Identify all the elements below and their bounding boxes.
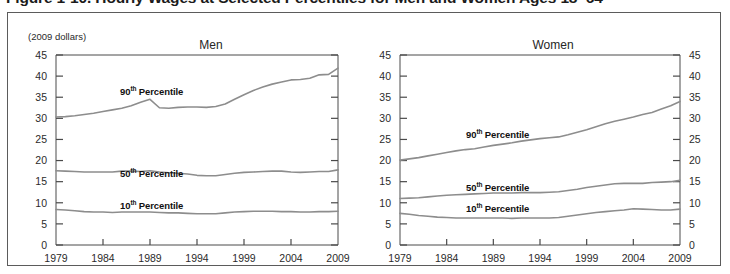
svg-text:0: 0 xyxy=(41,239,47,251)
svg-text:45: 45 xyxy=(35,49,47,61)
chart-plot-area: 0510152025303540451979198419891994199920… xyxy=(8,13,722,267)
svg-text:1994: 1994 xyxy=(528,252,552,264)
svg-text:2004: 2004 xyxy=(622,252,646,264)
svg-text:20: 20 xyxy=(689,154,701,166)
svg-text:10: 10 xyxy=(35,197,47,209)
svg-text:30: 30 xyxy=(35,112,47,124)
svg-text:15: 15 xyxy=(379,175,391,187)
svg-text:5: 5 xyxy=(385,218,391,230)
svg-text:0: 0 xyxy=(689,239,695,251)
series-label-women-p90: 90th Percentile xyxy=(466,129,529,140)
series-label-women-p50: 50th Percentile xyxy=(466,182,529,193)
series-label-men-p50: 50th Percentile xyxy=(120,168,183,179)
svg-text:1994: 1994 xyxy=(185,252,209,264)
svg-text:15: 15 xyxy=(689,175,701,187)
svg-text:35: 35 xyxy=(689,91,701,103)
series-label-men-p10: 10th Percentile xyxy=(120,200,183,211)
svg-text:20: 20 xyxy=(379,154,391,166)
svg-text:1999: 1999 xyxy=(232,252,256,264)
figure-container: Figure 1-10. Hourly Wages at Selected Pe… xyxy=(0,0,730,274)
svg-text:25: 25 xyxy=(35,133,47,145)
svg-text:0: 0 xyxy=(385,239,391,251)
svg-text:1989: 1989 xyxy=(138,252,162,264)
figure-title: Figure 1-10. Hourly Wages at Selected Pe… xyxy=(6,0,726,7)
svg-text:5: 5 xyxy=(41,218,47,230)
svg-text:1984: 1984 xyxy=(435,252,459,264)
series-label-women-p10: 10th Percentile xyxy=(466,203,529,214)
svg-text:25: 25 xyxy=(379,133,391,145)
svg-text:40: 40 xyxy=(35,70,47,82)
svg-text:1984: 1984 xyxy=(91,252,115,264)
svg-text:2004: 2004 xyxy=(279,252,303,264)
svg-text:2009: 2009 xyxy=(326,252,350,264)
svg-text:10: 10 xyxy=(689,197,701,209)
svg-text:1979: 1979 xyxy=(44,252,68,264)
svg-text:40: 40 xyxy=(689,70,701,82)
svg-text:1989: 1989 xyxy=(482,252,506,264)
svg-text:40: 40 xyxy=(379,70,391,82)
svg-text:1979: 1979 xyxy=(388,252,412,264)
svg-text:45: 45 xyxy=(379,49,391,61)
svg-text:35: 35 xyxy=(35,91,47,103)
series-label-men-p90: 90th Percentile xyxy=(120,86,183,97)
figure-bordered-box: (2009 dollars) Men Women 051015202530354… xyxy=(7,12,721,266)
svg-text:45: 45 xyxy=(689,49,701,61)
svg-text:30: 30 xyxy=(689,112,701,124)
svg-text:15: 15 xyxy=(35,175,47,187)
svg-text:1999: 1999 xyxy=(575,252,599,264)
svg-text:25: 25 xyxy=(689,133,701,145)
svg-text:2009: 2009 xyxy=(668,252,692,264)
svg-text:5: 5 xyxy=(689,218,695,230)
svg-text:35: 35 xyxy=(379,91,391,103)
svg-text:10: 10 xyxy=(379,197,391,209)
svg-text:30: 30 xyxy=(379,112,391,124)
svg-text:20: 20 xyxy=(35,154,47,166)
